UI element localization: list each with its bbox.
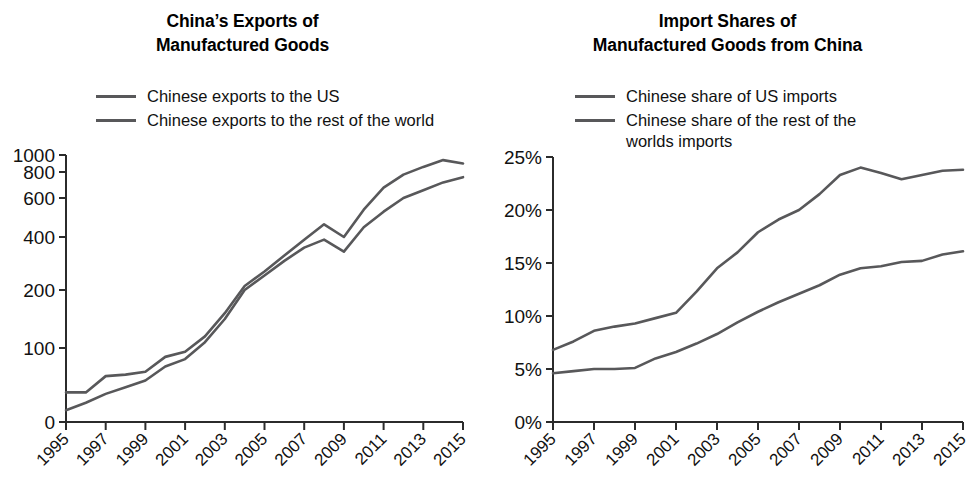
x-tick-label: 2015 (930, 429, 970, 469)
panel-exports: China’s Exports of Manufactured Goods Ch… (0, 0, 485, 494)
y-tick-label: 10% (504, 306, 542, 327)
y-tick-group: 0%5%10%15%20%25% (504, 147, 553, 433)
y-tick-label: 100 (23, 338, 55, 359)
x-tick-label: 2003 (684, 429, 724, 469)
x-tick-label: 1995 (33, 429, 73, 469)
x-tick-label: 1999 (112, 429, 152, 469)
x-tick-label: 2011 (351, 429, 390, 468)
x-tick-label: 2009 (311, 429, 351, 469)
x-tick-label: 2007 (766, 429, 806, 469)
plot-import-shares: 0%5%10%15%20%25% 19951997199920012003200… (485, 0, 970, 494)
x-tick-label: 2009 (807, 429, 847, 469)
x-tick-label: 1999 (602, 429, 642, 469)
y-tick-label: 200 (23, 280, 55, 301)
y-tick-label: 1000 (13, 145, 55, 166)
panel-import-shares: Import Shares of Manufactured Goods from… (485, 0, 970, 494)
data-series-line (553, 251, 963, 373)
x-tick-label: 2003 (191, 429, 231, 469)
x-tick-label: 1997 (561, 429, 601, 469)
plot-exports: 01002004006008001000 1995199719992001200… (0, 0, 485, 494)
x-axis-import-shares: 1995199719992001200320052007200920112013… (520, 422, 970, 470)
x-tick-label: 1995 (520, 429, 560, 469)
x-tick-label: 2001 (643, 429, 683, 469)
figure-root: China’s Exports of Manufactured Goods Ch… (0, 0, 970, 494)
x-tick-label: 2005 (725, 429, 765, 469)
y-tick-label: 25% (504, 147, 542, 168)
x-tick-label: 2001 (152, 429, 192, 469)
data-series-line (553, 168, 963, 350)
y-axis-import-shares: 0%5%10%15%20%25% (504, 147, 553, 433)
y-tick-label: 5% (515, 359, 543, 380)
x-tick-group: 1995199719992001200320052007200920112013… (520, 422, 970, 470)
x-tick-group: 1995199719992001200320052007200920112013… (33, 422, 470, 470)
x-tick-label: 2007 (271, 429, 311, 469)
y-axis-exports: 01002004006008001000 (13, 145, 66, 433)
x-axis-exports: 1995199719992001200320052007200920112013… (33, 422, 470, 470)
x-tick-label: 2013 (889, 429, 929, 469)
y-tick-group: 01002004006008001000 (13, 145, 66, 433)
y-tick-label: 20% (504, 200, 542, 221)
y-tick-label: 15% (504, 253, 542, 274)
series-group-import-shares (553, 168, 963, 374)
y-tick-label: 400 (23, 227, 55, 248)
y-tick-label: 600 (23, 188, 55, 209)
y-tick-label: 0% (515, 412, 543, 433)
x-tick-label: 2005 (231, 429, 271, 469)
x-tick-label: 2015 (430, 429, 470, 469)
x-tick-label: 2013 (390, 429, 430, 469)
series-group-exports (66, 160, 463, 410)
y-tick-label: 0 (44, 412, 55, 433)
x-tick-label: 1997 (72, 429, 112, 469)
x-tick-label: 2011 (849, 429, 888, 468)
